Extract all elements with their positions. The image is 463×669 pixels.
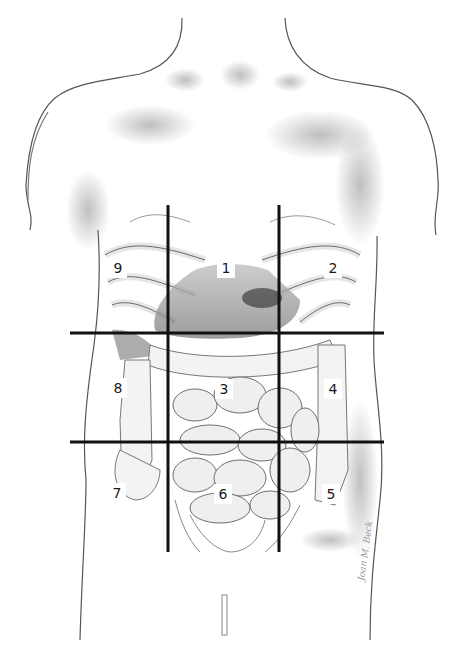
region-label-5: 5 [322,484,340,504]
region-label-7: 7 [108,483,126,503]
region-label-6: 6 [214,484,232,504]
region-label-9: 9 [109,258,127,278]
midline-marker [222,595,227,635]
region-label-2: 2 [324,258,342,278]
region-label-4: 4 [324,379,342,399]
region-label-3: 3 [215,379,233,399]
anatomy-illustration [0,0,463,669]
region-label-8: 8 [109,378,127,398]
region-label-1: 1 [217,258,235,278]
small-intestine [173,377,319,523]
